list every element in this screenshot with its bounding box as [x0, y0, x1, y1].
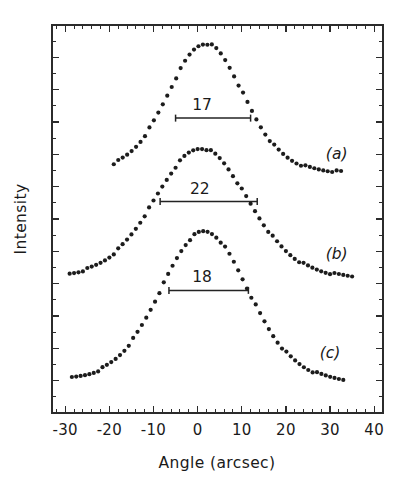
data-point [218, 156, 222, 160]
data-point [87, 372, 91, 376]
data-point [236, 268, 240, 272]
data-point [219, 241, 223, 245]
data-point [72, 271, 76, 275]
data-point [187, 151, 191, 155]
data-point [268, 139, 272, 143]
data-point [272, 142, 276, 146]
data-point [112, 252, 116, 256]
data-point [254, 117, 258, 121]
data-point [125, 153, 129, 157]
data-point [306, 368, 310, 372]
data-point [213, 152, 217, 156]
data-point [161, 102, 165, 106]
curve-label-b: (b) [326, 245, 348, 263]
data-point [319, 372, 323, 376]
data-point [266, 230, 270, 234]
data-point [76, 270, 80, 274]
fwhm-annotations-group: 172218 [160, 96, 257, 294]
data-point [244, 194, 248, 198]
data-point [94, 263, 98, 267]
data-point [285, 156, 289, 160]
data-point [232, 74, 236, 78]
data-point [105, 363, 109, 367]
data-point [301, 261, 305, 265]
data-point [143, 214, 147, 218]
data-point [116, 158, 120, 162]
x-axis-tick-label: 10 [232, 421, 252, 439]
fwhm-annotation-22: 22 [160, 180, 257, 206]
x-axis-tick-label: -30 [53, 421, 78, 439]
data-point [277, 147, 281, 151]
data-point [335, 168, 339, 172]
data-point [162, 280, 166, 284]
data-point [297, 260, 301, 264]
data-point [107, 256, 111, 260]
data-point [122, 349, 126, 353]
data-point [299, 164, 303, 168]
data-point [209, 148, 213, 152]
data-point [231, 174, 235, 178]
data-point [337, 377, 341, 381]
data-point [284, 249, 288, 253]
data-point [191, 148, 195, 152]
data-point [140, 323, 144, 327]
data-point [324, 373, 328, 377]
data-point [241, 91, 245, 95]
data-point [319, 269, 323, 273]
data-point [249, 296, 253, 300]
data-point [109, 360, 113, 364]
data-point [315, 370, 319, 374]
data-point [280, 347, 284, 351]
data-point [259, 125, 263, 129]
data-point [310, 266, 314, 270]
fwhm-annotation-18: 18 [169, 268, 248, 294]
data-point [226, 167, 230, 171]
data-point [125, 237, 129, 241]
data-point [152, 118, 156, 122]
data-point [92, 371, 96, 375]
y-axis-title: Intensity [12, 183, 30, 254]
data-point [100, 365, 104, 369]
data-point [306, 263, 310, 267]
data-point [222, 161, 226, 165]
data-point [228, 66, 232, 70]
data-point [302, 365, 306, 369]
x-axis-tick-label: -10 [141, 421, 166, 439]
x-axis-title: Angle (arcsec) [159, 454, 276, 472]
data-point [174, 76, 178, 80]
data-point [223, 244, 227, 248]
data-point [315, 268, 319, 272]
curve-label-a: (a) [326, 145, 348, 163]
data-series-a [112, 42, 343, 174]
data-point [90, 264, 94, 268]
data-point [179, 66, 183, 70]
data-series-group [68, 42, 355, 382]
data-point [210, 232, 214, 236]
data-point [114, 357, 118, 361]
data-point [271, 334, 275, 338]
data-point [200, 147, 204, 151]
data-point [328, 272, 332, 276]
data-point [219, 51, 223, 55]
x-axis-tick-label: -20 [97, 421, 122, 439]
data-point [169, 171, 173, 175]
data-point [118, 353, 122, 357]
data-point [293, 257, 297, 261]
x-axis-tick-label: 20 [276, 421, 296, 439]
data-point [70, 375, 74, 379]
data-point [160, 185, 164, 189]
data-point [236, 83, 240, 87]
data-point [151, 198, 155, 202]
data-point [121, 155, 125, 159]
data-point [254, 302, 258, 306]
data-point [308, 165, 312, 169]
x-axis-tick-label: 40 [364, 421, 384, 439]
data-point [262, 223, 266, 227]
data-point [227, 252, 231, 256]
data-point [130, 149, 134, 153]
data-point [166, 272, 170, 276]
data-point [143, 134, 147, 138]
data-point [245, 100, 249, 104]
data-point [138, 140, 142, 144]
data-point [147, 205, 151, 209]
